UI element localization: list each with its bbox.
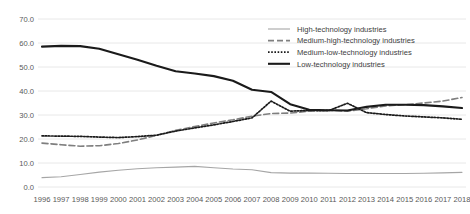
x-axis-tick-label: 2000 — [110, 195, 127, 204]
x-axis-tick-label: 2018 — [454, 195, 470, 204]
series-line — [42, 101, 462, 137]
legend-label: Medium-low-technology industries — [297, 48, 412, 57]
x-axis-tick-label: 2012 — [339, 195, 356, 204]
y-axis-tick-label: 50.0 — [19, 63, 34, 72]
y-axis-tick-label: 20.0 — [19, 135, 34, 144]
x-axis-tick-label: 2007 — [244, 195, 261, 204]
y-axis-tick-label: 70.0 — [19, 15, 34, 24]
chart-legend: High-technology industriesMedium-high-te… — [268, 25, 415, 69]
x-axis-tick-label: 2005 — [205, 195, 222, 204]
x-axis-tick-label: 2011 — [320, 195, 336, 204]
x-axis-tick-label: 2010 — [301, 195, 318, 204]
y-axis-tick-label: 30.0 — [19, 111, 34, 120]
chart-canvas: 0.010.020.030.040.050.060.070.0 19961997… — [0, 0, 470, 214]
x-axis-tick-label: 2015 — [396, 195, 413, 204]
x-axis-tick-label: 2002 — [148, 195, 165, 204]
legend-label: Low-technology industries — [297, 60, 385, 69]
data-series-group — [42, 46, 462, 178]
x-axis-tick-label: 2006 — [224, 195, 241, 204]
x-axis-tick-label: 2009 — [282, 195, 299, 204]
x-axis-tick-label: 2014 — [377, 195, 394, 204]
x-axis-tick-label: 2016 — [415, 195, 432, 204]
x-axis-tick-labels: 1996199719981999200020012002200320042005… — [34, 195, 470, 204]
x-axis-tick-label: 2017 — [434, 195, 451, 204]
x-axis-tick-label: 1999 — [91, 195, 108, 204]
x-axis-tick-label: 1997 — [53, 195, 70, 204]
y-axis-tick-label: 40.0 — [19, 87, 34, 96]
legend-label: Medium-high-technology industries — [297, 36, 415, 45]
legend-label: High-technology industries — [297, 25, 387, 34]
y-axis-tick-label: 10.0 — [19, 159, 34, 168]
x-axis-tick-label: 2013 — [358, 195, 375, 204]
x-axis-tick-label: 2001 — [129, 195, 146, 204]
y-axis-tick-labels: 0.010.020.030.040.050.060.070.0 — [19, 15, 34, 192]
y-axis-tick-label: 60.0 — [19, 39, 34, 48]
series-line — [42, 166, 462, 177]
x-axis-tick-label: 1996 — [34, 195, 51, 204]
y-axis-tick-label: 0.0 — [23, 183, 34, 192]
x-axis-tick-label: 1998 — [72, 195, 89, 204]
line-chart: 0.010.020.030.040.050.060.070.0 19961997… — [0, 0, 470, 214]
x-axis-tick-label: 2004 — [186, 195, 203, 204]
x-axis-tick-label: 2008 — [263, 195, 280, 204]
x-axis-tick-label: 2003 — [167, 195, 184, 204]
